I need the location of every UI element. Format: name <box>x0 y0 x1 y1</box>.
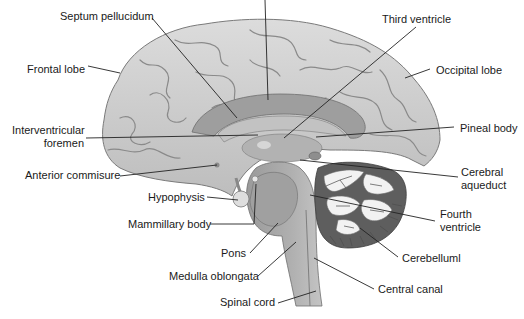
label-cerebellum: Cerebelluml <box>402 252 461 265</box>
label-interventricular-foramen-line1: Interventricular <box>12 124 84 137</box>
label-septum-pellucidum: Septum pellucidum <box>60 10 154 23</box>
label-fourth-ventricle-line2: ventricle <box>440 221 481 234</box>
label-anterior-commissure: Anterior commisure <box>25 169 120 182</box>
massa-intermedia <box>257 141 271 149</box>
label-cerebral-aqueduct-line1: Cerebral <box>461 166 506 179</box>
leader-frontal-lobe <box>88 66 120 73</box>
label-fourth-ventricle-line1: Fourth <box>440 208 481 221</box>
mammillary-body <box>252 176 258 182</box>
label-mammillary-body: Mammillary body <box>128 218 211 231</box>
hypophysis <box>233 191 249 207</box>
label-pons: Pons <box>221 247 246 260</box>
label-spinal-cord: Spinal cord <box>220 296 275 309</box>
label-hypophysis: Hypophysis <box>148 191 205 204</box>
label-interventricular-foramen: Interventricular foremen <box>12 124 84 150</box>
label-cerebral-aqueduct-line2: aqueduct <box>461 179 506 192</box>
label-third-ventricle: Third ventricle <box>382 13 451 26</box>
label-medulla-oblongata: Medulla oblongata <box>169 270 259 283</box>
brain-diagram <box>0 0 524 319</box>
label-frontal-lobe: Frontal lobe <box>27 63 85 76</box>
label-interventricular-foramen-line2: foremen <box>12 137 84 150</box>
label-occipital-lobe: Occipital lobe <box>436 64 502 77</box>
label-cerebral-aqueduct: Cerebral aqueduct <box>461 166 506 192</box>
label-pineal-body: Pineal body <box>460 122 518 135</box>
pineal-body <box>309 152 321 160</box>
label-central-canal: Central canal <box>378 283 443 296</box>
leader-central-canal <box>314 258 374 289</box>
label-fourth-ventricle: Fourth ventricle <box>440 208 481 234</box>
